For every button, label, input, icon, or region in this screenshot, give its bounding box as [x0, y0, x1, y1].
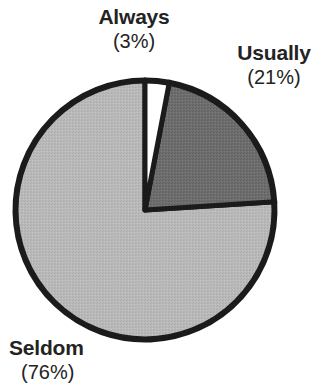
pie-label-usually-name: Usually: [229, 42, 319, 63]
pie-label-usually-percent: (21%): [229, 67, 319, 87]
pie-label-always-percent: (3%): [90, 31, 178, 51]
pie-label-always-name: Always: [90, 6, 178, 27]
pie-label-seldom-percent: (76%): [21, 362, 139, 382]
pie-label-seldom: Seldom (76%): [9, 337, 139, 382]
pie-label-seldom-name: Seldom: [9, 337, 139, 358]
pie-label-usually: Usually (21%): [229, 42, 319, 87]
pie-chart: Always (3%) Usually (21%) Seldom (76%): [0, 0, 319, 383]
pie-label-always: Always (3%): [90, 6, 178, 51]
